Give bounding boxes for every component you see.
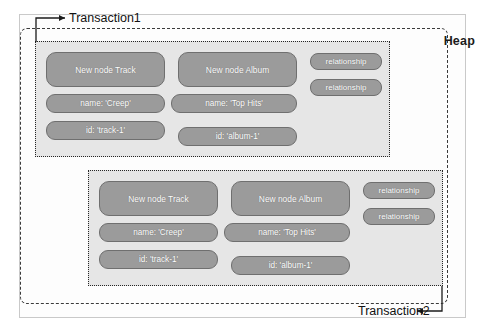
heap-transactions-diagram: Heap New node Track name: 'Creep' id: 't…: [0, 0, 485, 334]
transaction2-leader-line: [0, 0, 485, 334]
transaction2-label: Transaction2: [358, 304, 430, 318]
